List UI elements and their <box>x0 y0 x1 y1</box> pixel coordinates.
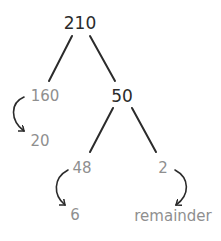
node-right-left-part: 48 <box>72 161 91 176</box>
curved-arrow-icon <box>175 170 186 205</box>
curved-arrow-icon <box>56 170 68 205</box>
node-left-result: 20 <box>30 134 49 149</box>
edge-210-160 <box>49 36 72 81</box>
node-root: 210 <box>64 15 96 32</box>
node-left-part: 160 <box>31 89 60 104</box>
node-right-left-result: 6 <box>70 208 80 223</box>
edge-50-48 <box>90 108 113 152</box>
node-right-right-part: 2 <box>158 161 168 176</box>
curved-arrow-icon <box>14 97 25 131</box>
diagram-connectors <box>0 0 221 241</box>
edge-50-2 <box>132 108 156 152</box>
node-right-right-result: remainder <box>134 209 211 224</box>
node-right-part: 50 <box>111 88 133 105</box>
edge-210-50 <box>90 36 115 81</box>
